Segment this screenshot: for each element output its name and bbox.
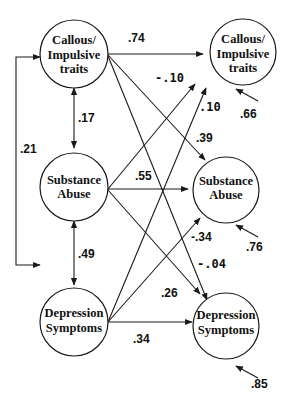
- residual-label-depression: .85: [251, 377, 268, 391]
- path-substance-to-depression: [108, 190, 200, 294]
- path-label-depression-to-depression: .34: [133, 332, 150, 346]
- node-t1-depression: Depression Symptoms: [40, 288, 108, 356]
- path-label-depression-to-substance: -.34: [191, 230, 212, 244]
- path-callous-to-depression: [108, 56, 207, 300]
- path-diagram: Callous/ Impulsive traits Substance Abus…: [0, 0, 281, 401]
- correlation-label-callous-substance: .17: [78, 111, 95, 125]
- node-label: Symptoms: [198, 323, 254, 337]
- path-label-depression-to-callous: .10: [199, 100, 221, 114]
- correlation-bracket-callous-depression: [16, 57, 40, 265]
- node-label: traits: [60, 62, 89, 76]
- node-label: Callous/: [221, 32, 265, 46]
- node-label: Impulsive: [48, 48, 101, 62]
- node-label: Abuse: [57, 187, 91, 201]
- node-t1-substance: Substance Abuse: [40, 153, 108, 221]
- node-label: Substance: [199, 174, 254, 188]
- node-t2-substance: Substance Abuse: [193, 157, 259, 223]
- node-t2-depression: Depression Symptoms: [193, 293, 259, 359]
- correlation-label-callous-depression: .21: [20, 142, 37, 156]
- path-depression-to-substance: [108, 218, 200, 322]
- residual-label-substance: .76: [246, 240, 263, 254]
- path-depression-to-callous: [108, 88, 206, 322]
- path-label-substance-to-substance: .55: [135, 169, 152, 183]
- node-label: Symptoms: [46, 321, 102, 335]
- residual-arrow-substance: [236, 225, 258, 237]
- node-label: Abuse: [209, 188, 243, 202]
- node-t2-callous: Callous/ Impulsive traits: [210, 19, 276, 85]
- path-label-substance-to-depression: .26: [161, 286, 178, 300]
- correlation-label-substance-depression: .49: [78, 247, 95, 261]
- residual-label-callous: .66: [240, 107, 257, 121]
- path-label-callous-to-callous: .74: [128, 31, 145, 45]
- node-label: Depression: [45, 306, 104, 320]
- node-t1-callous: Callous/ Impulsive traits: [40, 20, 108, 88]
- node-label: Substance: [47, 173, 102, 187]
- path-label-substance-to-callous: -.10: [155, 71, 184, 85]
- residual-arrow-callous: [236, 89, 258, 101]
- node-label: traits: [229, 61, 258, 75]
- node-label: Impulsive: [217, 47, 270, 61]
- path-label-callous-to-substance: .39: [196, 131, 213, 145]
- path-label-callous-to-depression: -.04: [197, 257, 226, 271]
- node-label: Depression: [197, 308, 256, 322]
- node-label: Callous/: [52, 33, 96, 47]
